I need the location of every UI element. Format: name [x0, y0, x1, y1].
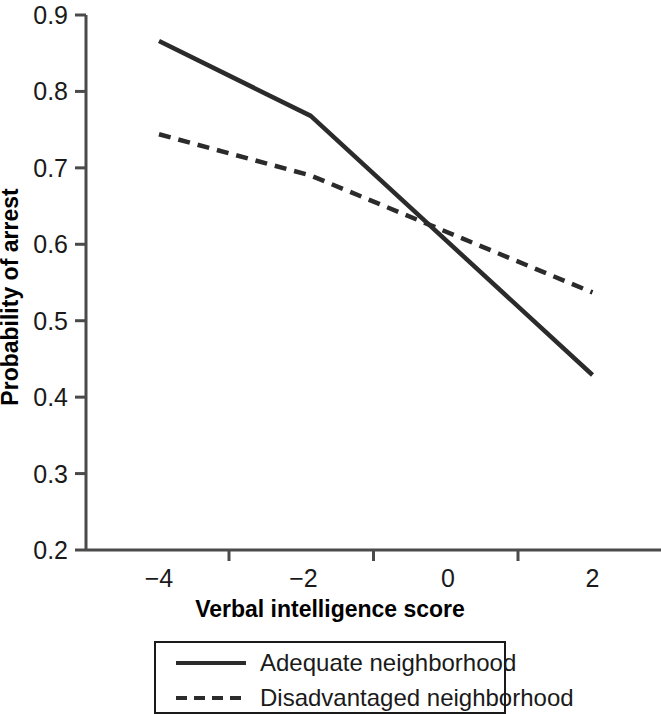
y-axis-tick-label: 0.3 [0, 461, 68, 486]
x-axis-title: Verbal intelligence score [195, 598, 465, 621]
legend-entry-adequate: Adequate neighborhood [156, 645, 504, 681]
y-axis-title: Probability of arrest [0, 188, 22, 405]
legend-swatch-solid-line-icon [174, 656, 248, 670]
chart-legend: Adequate neighborhood Disadvantaged neig… [154, 641, 506, 714]
chart-figure: 0.20.30.40.50.60.70.80.9 −4−202 Probabil… [0, 0, 661, 714]
legend-label-disadvantaged: Disadvantaged neighborhood [260, 686, 574, 710]
y-axis-tick-label: 0.8 [0, 79, 68, 104]
x-axis-tick-label: −2 [289, 566, 318, 591]
y-axis-ticks [75, 15, 86, 550]
x-axis-tick-label: −4 [145, 566, 174, 591]
legend-label-adequate: Adequate neighborhood [260, 651, 516, 675]
y-axis-tick-label: 0.2 [0, 538, 68, 563]
data-series-line-0 [159, 41, 593, 375]
data-series-line-1 [159, 134, 593, 292]
y-axis-tick-label: 0.7 [0, 155, 68, 180]
data-series-group [159, 41, 593, 375]
legend-swatch-dashed-line-icon [174, 691, 248, 705]
x-axis-ticks [229, 550, 518, 561]
y-axis-tick-label: 0.9 [0, 3, 68, 28]
legend-entry-disadvantaged: Disadvantaged neighborhood [156, 680, 504, 714]
axis-lines [86, 15, 661, 550]
x-axis-tick-label: 0 [441, 566, 455, 591]
x-axis-tick-label: 2 [586, 566, 600, 591]
